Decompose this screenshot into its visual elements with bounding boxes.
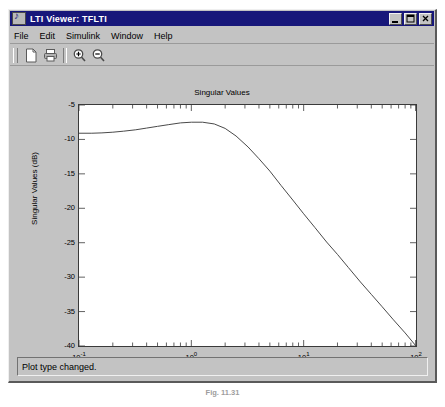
plot-canvas (79, 105, 416, 346)
lti-viewer-window: LTI Viewer: TFLTI File Edit Simulink Win… (8, 9, 437, 383)
plot-panel: Singular Values Singular Values (dB) -5-… (10, 66, 434, 353)
figure-caption: Fig. 11.31 (0, 388, 445, 397)
y-tick-label: -40 (64, 342, 75, 350)
menu-window[interactable]: Window (111, 29, 150, 43)
toolbar-separator (63, 48, 67, 63)
music-note-icon (12, 12, 26, 25)
toolbar (10, 45, 434, 66)
close-button[interactable] (419, 13, 432, 25)
window-title: LTI Viewer: TFLTI (30, 14, 389, 24)
minimize-button[interactable] (389, 13, 402, 25)
y-tick-label: -35 (64, 308, 75, 316)
y-tick-label: -5 (68, 101, 75, 109)
y-axis-ticks: -5-10-15-20-25-30-35-40 (50, 104, 75, 347)
maximize-button[interactable] (404, 13, 417, 25)
zoom-out-icon[interactable] (89, 46, 108, 64)
y-tick-label: -30 (64, 273, 75, 281)
menu-help[interactable]: Help (154, 29, 180, 43)
window-controls (389, 13, 432, 25)
menu-simulink[interactable]: Simulink (66, 29, 107, 43)
title-bar[interactable]: LTI Viewer: TFLTI (10, 11, 434, 26)
y-tick-label: -20 (64, 204, 75, 212)
plot-axes[interactable] (78, 104, 417, 347)
menu-file[interactable]: File (14, 29, 36, 43)
new-document-icon[interactable] (22, 46, 41, 64)
y-tick-label: -10 (64, 135, 75, 143)
status-message: Plot type changed. (22, 362, 97, 372)
y-axis-label: Singular Values (dB) (30, 119, 39, 259)
menu-edit[interactable]: Edit (40, 29, 63, 43)
print-icon[interactable] (41, 46, 60, 64)
toolbar-grip[interactable] (13, 48, 18, 63)
chart-title: Singular Values (10, 88, 434, 97)
status-bar[interactable]: Plot type changed. (17, 357, 428, 376)
y-tick-label: -25 (64, 239, 75, 247)
y-tick-label: -15 (64, 170, 75, 178)
zoom-in-icon[interactable] (70, 46, 89, 64)
menu-bar: File Edit Simulink Window Help (10, 28, 434, 44)
